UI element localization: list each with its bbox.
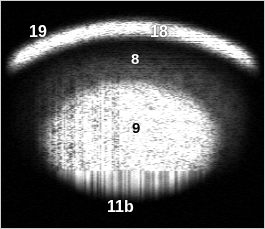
annotation-label-11b: 11b (107, 199, 134, 215)
annotation-label-18: 18 (150, 24, 168, 40)
annotation-label-8: 8 (131, 51, 139, 66)
ultrasound-figure: 19 18 8 9 11b (0, 0, 265, 229)
annotation-label-19: 19 (29, 24, 47, 40)
annotation-label-9: 9 (132, 120, 140, 135)
